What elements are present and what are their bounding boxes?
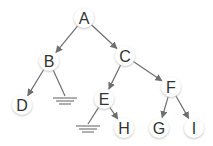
edge-A-C [91, 25, 117, 49]
node-label: A [79, 10, 90, 27]
edge-B-D [28, 70, 44, 96]
edge-E-null [88, 107, 99, 124]
null-ground-icon [76, 126, 100, 132]
edges [28, 25, 189, 124]
edge-C-E [109, 65, 121, 89]
tree-node-G: G [149, 118, 169, 138]
node-label: G [153, 120, 165, 137]
nodes: ABCDEFHGI [12, 8, 204, 138]
node-label: D [16, 97, 28, 114]
edge-F-G [162, 97, 168, 118]
tree-node-E: E [94, 89, 114, 109]
tree-node-A: A [74, 8, 94, 28]
tree-diagram: ABCDEFHGI [0, 0, 213, 146]
node-label: B [44, 53, 55, 70]
edge-E-H [110, 107, 118, 119]
node-label: I [192, 120, 196, 137]
null-markers [53, 98, 100, 132]
tree-node-B: B [39, 51, 59, 71]
edge-F-I [176, 96, 189, 119]
tree-node-H: H [114, 118, 134, 138]
tree-node-F: F [161, 77, 181, 97]
node-label: E [99, 91, 110, 108]
tree-node-C: C [115, 46, 135, 66]
tree-node-I: I [184, 118, 204, 138]
node-label: F [166, 79, 176, 96]
node-label: C [119, 48, 131, 65]
null-ground-icon [53, 98, 77, 104]
edge-B-null [53, 70, 65, 96]
tree-node-D: D [12, 95, 32, 115]
node-label: H [118, 120, 130, 137]
edge-C-F [133, 62, 162, 81]
edge-A-B [56, 26, 78, 53]
